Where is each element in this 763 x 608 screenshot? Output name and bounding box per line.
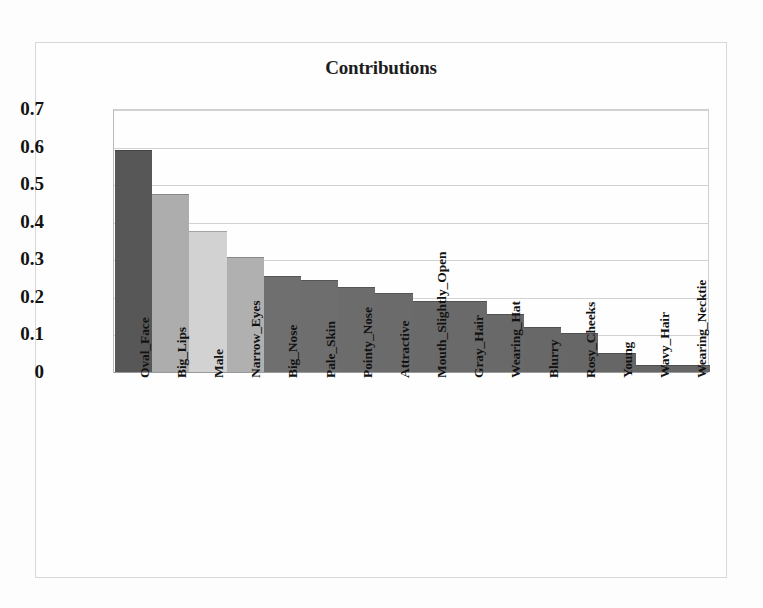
y-tick-label: 0.3 bbox=[0, 248, 44, 270]
chart-title: Contributions bbox=[36, 57, 726, 79]
x-tick-label: Oval_Face bbox=[137, 317, 153, 378]
x-tick-label: Attractive bbox=[397, 321, 413, 378]
x-tick-label: Blurry bbox=[546, 340, 562, 378]
x-tick-label: Pale_Skin bbox=[323, 321, 339, 378]
y-tick-label: 0.4 bbox=[0, 211, 44, 233]
x-tick-label: Young bbox=[620, 342, 636, 378]
x-tick-label: Big_Nose bbox=[285, 325, 301, 378]
x-tick-label: Big_Lips bbox=[174, 327, 190, 378]
y-tick-label: 0.1 bbox=[0, 323, 44, 345]
x-tick-label: Male bbox=[211, 349, 227, 378]
x-tick-label: Narrow_Eyes bbox=[248, 301, 264, 378]
y-tick-label: 0.2 bbox=[0, 286, 44, 308]
x-tick-label: Wearing_Hat bbox=[508, 301, 524, 378]
bar-slot bbox=[598, 109, 635, 372]
y-tick-label: 0.7 bbox=[0, 98, 44, 120]
x-tick-label: Wavy_Hair bbox=[657, 312, 673, 378]
bar-slot bbox=[524, 109, 561, 372]
chart-frame: Contributions 00.10.20.30.40.50.60.7 Ova… bbox=[35, 42, 727, 578]
y-tick-label: 0 bbox=[0, 361, 44, 383]
x-tick-label: Pointy_Nose bbox=[360, 307, 376, 378]
y-tick-label: 0.5 bbox=[0, 173, 44, 195]
bar-slot bbox=[189, 109, 226, 372]
y-tick-label: 0.6 bbox=[0, 136, 44, 158]
x-tick-label: Wearing_Necktie bbox=[694, 280, 710, 378]
x-tick-label: Mouth_Slightly_Open bbox=[434, 252, 450, 378]
x-tick-label: Gray_Hair bbox=[471, 315, 487, 378]
x-tick-label: Rosy_Cheeks bbox=[583, 302, 599, 378]
